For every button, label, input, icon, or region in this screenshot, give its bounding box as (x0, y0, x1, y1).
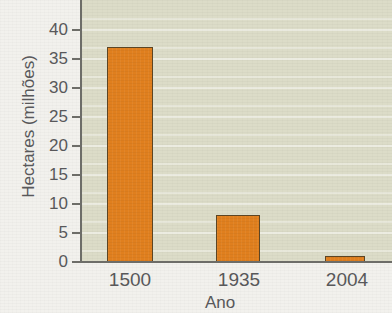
y-axis-tick (72, 58, 81, 60)
y-axis-tick (72, 87, 81, 89)
y-axis-title: Hectares (milhões) (20, 37, 37, 217)
y-axis-tick (72, 261, 81, 263)
y-axis-tick (72, 174, 81, 176)
y-axis-tick (72, 145, 81, 147)
y-axis-tick (72, 116, 81, 118)
gridline (82, 29, 392, 31)
bar-1500 (107, 47, 153, 262)
plot-area (82, 0, 392, 262)
y-axis-tick (72, 29, 81, 31)
y-axis-tick-label-40: 40 (28, 21, 68, 38)
y-axis-line (80, 0, 82, 263)
bar-1935 (216, 215, 260, 262)
x-axis-tick-label-1500: 1500 (85, 270, 175, 289)
x-axis-tick-label-1935: 1935 (194, 270, 284, 289)
x-axis-title: Ano (150, 294, 290, 311)
y-axis-tick (72, 203, 81, 205)
x-axis-tick-label-2004: 2004 (302, 270, 392, 289)
y-axis-tick-label-0: 0 (28, 253, 68, 270)
bar-chart-figure: 40 35 30 25 20 15 10 5 0 1500 1935 2004 … (0, 0, 392, 313)
y-axis-tick (72, 232, 81, 234)
x-axis-line (80, 261, 392, 263)
y-axis-tick-label-5: 5 (28, 224, 68, 241)
